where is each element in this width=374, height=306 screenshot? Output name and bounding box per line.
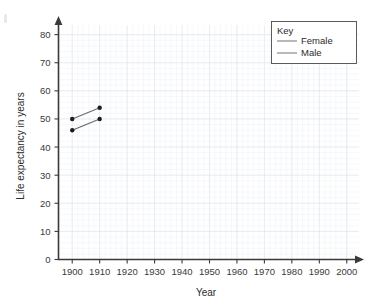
x-tick-label: 1960: [226, 266, 247, 277]
legend-label-male: Male: [301, 47, 322, 58]
y-tick-label: 80: [40, 29, 51, 40]
x-tick-label: 1980: [281, 266, 302, 277]
x-tick-label: 1990: [309, 266, 330, 277]
y-tick-label: 0: [45, 254, 50, 265]
x-axis-tick-labels: 1900191019201930194019501960197019801990…: [62, 266, 358, 277]
y-tick-label: 20: [40, 198, 51, 209]
x-tick-label: 1920: [117, 266, 138, 277]
x-tick-label: 1940: [171, 266, 192, 277]
life-expectancy-line-chart: 1900191019201930194019501960197019801990…: [0, 0, 374, 306]
legend: Key FemaleMale: [272, 22, 357, 64]
y-tick-label: 60: [40, 85, 51, 96]
data-point-marker: [70, 128, 74, 132]
y-tick-label: 30: [40, 170, 51, 181]
chart-page: 1900191019201930194019501960197019801990…: [0, 0, 374, 306]
y-tick-label: 10: [40, 226, 51, 237]
data-point-marker: [97, 106, 101, 110]
y-tick-label: 70: [40, 57, 51, 68]
y-tick-label: 50: [40, 113, 51, 124]
corner-artifact: [4, 14, 7, 23]
x-axis-title: Year: [196, 287, 217, 298]
y-axis-tick-labels: 01020304050607080: [40, 29, 51, 265]
x-tick-label: 1930: [144, 266, 165, 277]
y-tick-label: 40: [40, 142, 51, 153]
data-point-marker: [70, 117, 74, 121]
data-point-marker: [97, 117, 101, 121]
x-tick-label: 1910: [89, 266, 110, 277]
x-tick-label: 1950: [199, 266, 220, 277]
legend-title: Key: [277, 25, 294, 36]
legend-label-female: Female: [301, 35, 333, 46]
x-tick-label: 1970: [254, 266, 275, 277]
x-tick-label: 2000: [336, 266, 357, 277]
y-axis-title: Life expectancy in years: [15, 92, 26, 199]
x-tick-label: 1900: [62, 266, 83, 277]
